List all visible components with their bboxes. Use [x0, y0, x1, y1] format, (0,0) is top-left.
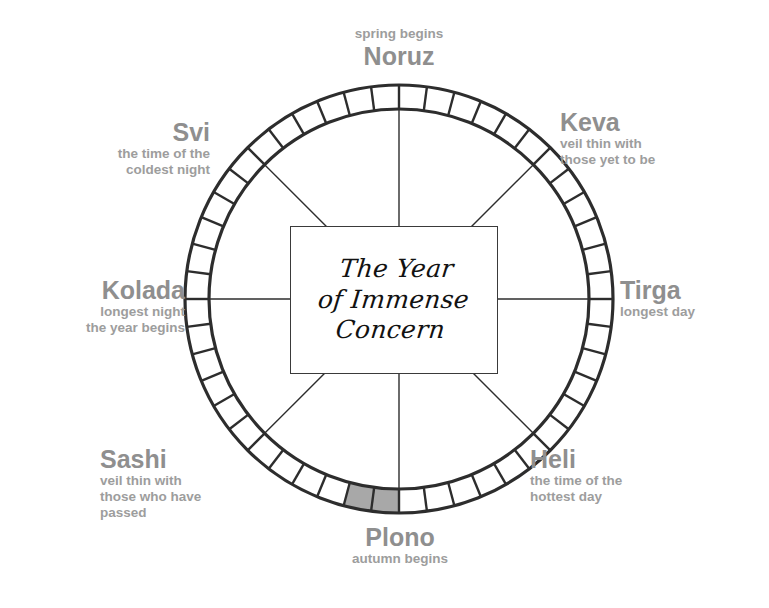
wheel-cell-divider: [533, 148, 550, 165]
station-heli-name: Heli: [530, 447, 730, 473]
wheel-cell-divider: [371, 87, 374, 111]
wheel-cell-divider: [550, 415, 569, 430]
station-keva-description: veil thin with those yet to be: [560, 136, 740, 169]
wheel-cell-divider: [564, 192, 585, 204]
wheel-cell-divider: [575, 372, 597, 381]
station-svi-name: Svi: [38, 120, 210, 146]
station-heli-description: the time of the hottest day: [530, 473, 730, 506]
center-title-text: The Year of Immense Concern: [314, 254, 475, 346]
wheel-cell-divider: [248, 148, 265, 165]
wheel-cell-divider: [472, 101, 481, 123]
wheel-cell-divider: [344, 92, 350, 115]
wheel-cell-divider: [564, 394, 585, 406]
wheel-cell-divider: [317, 475, 326, 497]
station-plono-description: autumn begins: [300, 551, 500, 567]
wheel-cell-divider: [192, 244, 215, 250]
station-noruz-description: spring begins: [299, 26, 499, 42]
wheel-cell-divider: [229, 415, 248, 430]
wheel-cell-divider: [201, 217, 223, 226]
wheel-cell-divider: [494, 114, 506, 135]
calendar-wheel-diagram: The Year of Immense Concern spring begin…: [0, 0, 769, 608]
wheel-cell-divider: [201, 372, 223, 381]
station-sashi[interactable]: Sashi veil thin with those who have pass…: [100, 447, 300, 522]
wheel-cell-divider: [515, 450, 530, 469]
station-heli[interactable]: Heli the time of the hottest day: [530, 447, 730, 505]
station-sashi-name: Sashi: [100, 447, 300, 473]
station-noruz[interactable]: spring begins Noruz: [299, 26, 499, 70]
wheel-cell-divider: [583, 244, 606, 250]
station-tirga-description: longest day: [620, 304, 760, 320]
station-noruz-name: Noruz: [299, 44, 499, 70]
station-tirga-name: Tirga: [620, 278, 760, 304]
wheel-cell-divider: [192, 348, 215, 354]
station-svi[interactable]: Svi the time of the coldest night: [38, 120, 210, 178]
wheel-cell-divider: [587, 271, 611, 274]
station-keva-name: Keva: [560, 110, 740, 136]
wheel-cell-divider: [587, 324, 611, 327]
wheel-cell-divider: [575, 217, 597, 226]
wheel-cell-divider: [448, 483, 454, 506]
wheel-cell-divider: [515, 129, 530, 148]
wheel-cell-divider: [317, 101, 326, 123]
wheel-cell-divider: [424, 487, 427, 511]
wheel-cell-divider: [187, 271, 211, 274]
station-kolada-description: longest night the year begins: [20, 304, 185, 337]
station-tirga[interactable]: Tirga longest day: [620, 278, 760, 320]
wheel-cell-divider: [472, 475, 481, 497]
station-plono[interactable]: Plono autumn begins: [300, 525, 500, 567]
wheel-cell-divider: [550, 169, 569, 184]
wheel-cell-divider: [424, 87, 427, 111]
wheel-cell-divider: [214, 394, 235, 406]
station-sashi-description: veil thin with those who have passed: [100, 473, 300, 522]
wheel-cell-divider: [292, 114, 304, 135]
station-plono-name: Plono: [300, 525, 500, 551]
station-svi-description: the time of the coldest night: [38, 146, 210, 179]
station-kolada-name: Kolada: [20, 278, 185, 304]
wheel-cell-divider: [448, 92, 454, 115]
wheel-cell-divider: [583, 348, 606, 354]
wheel-cell-divider: [269, 129, 284, 148]
station-keva[interactable]: Keva veil thin with those yet to be: [560, 110, 740, 168]
wheel-cell-divider: [214, 192, 235, 204]
wheel-cell-highlighted: [371, 487, 399, 513]
wheel-cell-divider: [494, 464, 506, 485]
wheel-cell-divider: [187, 324, 211, 327]
wheel-cell-divider: [229, 169, 248, 184]
station-kolada[interactable]: Kolada longest night the year begins: [20, 278, 185, 336]
center-title-box: The Year of Immense Concern: [290, 226, 498, 374]
